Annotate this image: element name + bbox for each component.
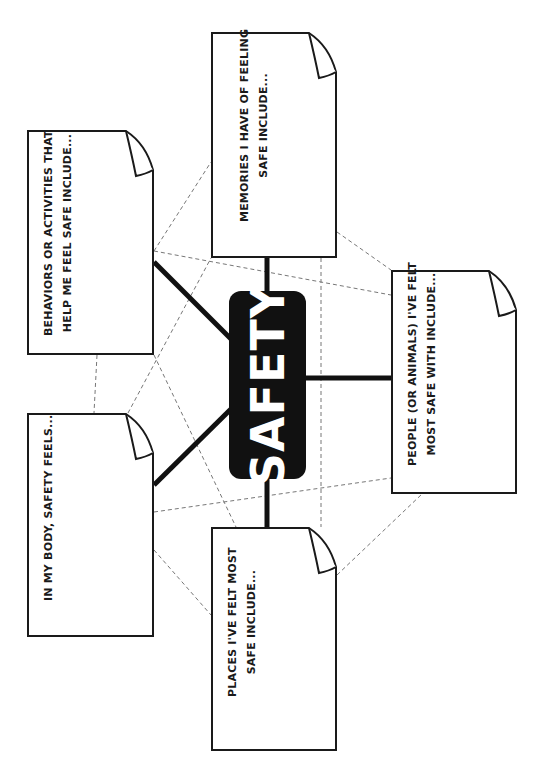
center-hub: SAFETY [229,291,306,479]
card-memories[interactable]: MEMORIES I HAVE OF FEELING SAFE INCLUDE.… [211,32,337,258]
center-hub-label: SAFETY [241,284,295,486]
card-behaviors[interactable]: BEHAVIORS OR ACTIVITIES THAT HELP ME FEE… [27,130,154,355]
card-memories-label: MEMORIES I HAVE OF FEELING SAFE INCLUDE.… [235,29,273,222]
card-places[interactable]: PLACES I'VE FELT MOST SAFE INCLUDE... [211,527,337,751]
card-people[interactable]: PEOPLE (OR ANIMALS) I'VE FELT MOST SAFE … [391,270,517,494]
card-body-label: IN MY BODY, SAFETY FEELS... [39,415,58,601]
card-places-label: PLACES I'VE FELT MOST SAFE INCLUDE... [223,547,261,697]
page-curl-icon [211,32,337,258]
card-behaviors-label: BEHAVIORS OR ACTIVITIES THAT HELP ME FEE… [39,130,77,336]
card-body[interactable]: IN MY BODY, SAFETY FEELS... [27,413,154,637]
card-people-label: PEOPLE (OR ANIMALS) I'VE FELT MOST SAFE … [403,262,441,466]
